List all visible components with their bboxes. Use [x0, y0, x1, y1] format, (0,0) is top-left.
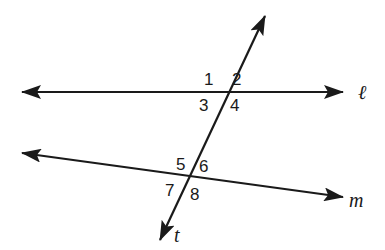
diagram-canvas: 1 2 3 4 5 6 7 8 ℓ m t: [0, 0, 385, 250]
diagram-svg: 1 2 3 4 5 6 7 8 ℓ m t: [0, 0, 385, 250]
angle-label-6: 6: [199, 157, 208, 176]
transversal-t: [160, 16, 265, 240]
angle-label-5: 5: [176, 155, 185, 174]
angle-label-8: 8: [190, 185, 199, 204]
angle-label-4: 4: [230, 96, 239, 115]
angle-label-3: 3: [199, 96, 208, 115]
line-label-t: t: [174, 224, 180, 246]
angle-label-2: 2: [232, 70, 241, 89]
line-label-m: m: [349, 189, 363, 211]
angle-label-7: 7: [165, 181, 174, 200]
line-label-l: ℓ: [358, 81, 367, 103]
angle-label-1: 1: [204, 70, 213, 89]
